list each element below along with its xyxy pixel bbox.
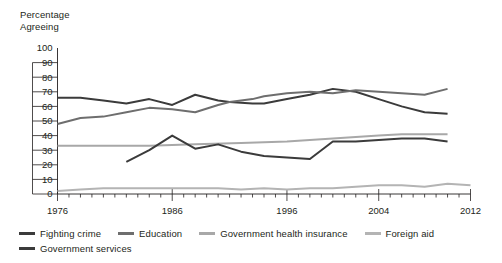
legend-label: Government health insurance [220, 228, 347, 239]
series-line-government-services [126, 136, 447, 162]
chart-legend: Fighting crimeEducationGovernment health… [19, 226, 489, 256]
legend-item-government-health-insurance[interactable]: Government health insurance [199, 228, 347, 239]
series-line-foreign-aid [58, 184, 471, 191]
legend-swatch-icon [118, 232, 134, 235]
legend-item-government-services[interactable]: Government services [19, 243, 132, 254]
x-tick-label: 1976 [47, 205, 68, 216]
legend-swatch-icon [199, 232, 215, 235]
x-tick-label: 1996 [276, 205, 297, 216]
legend-swatch-icon [19, 232, 35, 235]
legend-label: Government services [40, 243, 132, 254]
y-tick-label: 100 [37, 42, 53, 53]
x-tick-label: 1986 [162, 205, 183, 216]
legend-swatch-icon [19, 247, 35, 250]
plot-area: 1009080706050403020100197619861996200420… [0, 0, 502, 263]
series-line-education [58, 89, 448, 124]
legend-label: Foreign aid [386, 228, 435, 239]
legend-row: Fighting crimeEducationGovernment health… [19, 226, 489, 241]
legend-item-foreign-aid[interactable]: Foreign aid [365, 228, 435, 239]
legend-row: Government services [19, 241, 489, 256]
legend-label: Education [139, 228, 182, 239]
line-chart: Percentage Agreeing 10090807060504030201… [0, 0, 502, 263]
x-tick-label: 2004 [368, 205, 389, 216]
legend-swatch-icon [365, 232, 381, 235]
legend-label: Fighting crime [40, 228, 101, 239]
x-tick-label: 2012 [460, 205, 481, 216]
legend-item-education[interactable]: Education [118, 228, 182, 239]
legend-item-fighting-crime[interactable]: Fighting crime [19, 228, 101, 239]
